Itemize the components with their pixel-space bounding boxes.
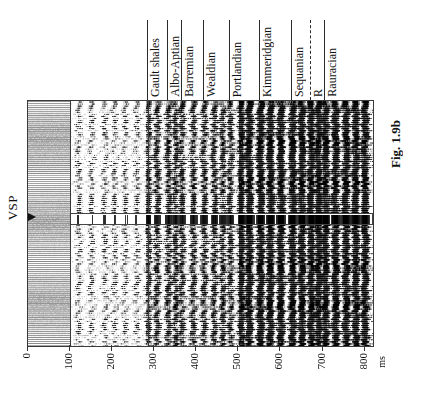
axis-tick-mark xyxy=(237,345,238,351)
axis-tick-label: 500 xyxy=(231,353,242,370)
axis-tick-mark xyxy=(27,345,28,351)
axis-tick-label: 800 xyxy=(358,353,369,370)
marker-label-rauracian: Rauracian xyxy=(326,48,338,97)
figure-caption: Fig. 1.9b xyxy=(388,120,404,168)
marker-label-portlandian: Portlandian xyxy=(231,42,243,97)
marker-label-sequanian: Sequanian xyxy=(293,47,305,97)
vsp-annotation-label: VSP xyxy=(5,195,21,220)
axis-tick-mark xyxy=(195,345,196,351)
axis-tick-label: 400 xyxy=(189,353,200,370)
seismic-section-panel xyxy=(27,100,374,347)
figure-1-9b: Gault shalesAlbo-AptianBarremianWealdian… xyxy=(0,0,427,394)
marker-line-r xyxy=(310,20,311,100)
right-arrow-icon xyxy=(28,213,36,221)
marker-label-r: R xyxy=(312,89,324,97)
axis-tick-label: 700 xyxy=(316,353,327,370)
marker-label-barremian: Barremian xyxy=(183,46,195,97)
axis-tick-label: 0 xyxy=(21,353,32,359)
marker-label-wealdian: Wealdian xyxy=(205,52,217,97)
seismic-trace-canvas xyxy=(28,101,373,346)
marker-label-kimmeridgian: Kimmeridgian xyxy=(261,27,273,97)
time-axis: 0100200300400500600700800 xyxy=(27,345,372,391)
marker-label-albo-aptian: Albo-Aptian xyxy=(169,36,181,97)
axis-tick-label: 100 xyxy=(63,353,74,370)
stratigraphic-marker-group: Gault shalesAlbo-AptianBarremianWealdian… xyxy=(0,0,427,101)
axis-tick-label: 300 xyxy=(147,353,158,370)
axis-tick-mark xyxy=(279,345,280,351)
axis-tick-label: 200 xyxy=(105,353,116,370)
vsp-annotation: VSP xyxy=(2,178,24,238)
axis-tick-label: 600 xyxy=(273,353,284,370)
axis-tick-mark xyxy=(153,345,154,351)
axis-tick-mark xyxy=(69,345,70,351)
marker-label-gault-shales: Gault shales xyxy=(149,38,161,97)
axis-tick-mark xyxy=(364,345,365,351)
axis-tick-mark xyxy=(111,345,112,351)
time-axis-unit: ms xyxy=(376,356,387,368)
axis-tick-mark xyxy=(322,345,323,351)
